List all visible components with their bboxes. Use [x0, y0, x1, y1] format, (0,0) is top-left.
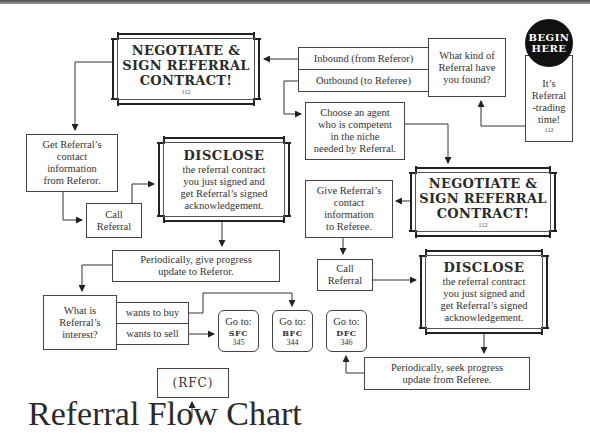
goto-code: DFC	[336, 328, 356, 338]
page-ref: 112	[545, 126, 554, 134]
option-label: Inbound (from Referor)	[314, 53, 414, 65]
box-line: Get Referral’s	[42, 139, 101, 151]
call-referral-outbound: Call Referral	[317, 259, 373, 291]
choose-agent-box: Choose an agent who is competent in the …	[305, 102, 405, 160]
page-ref: 112	[182, 88, 191, 96]
question-line: Referral’s	[59, 317, 100, 329]
box-line: from Referor.	[43, 175, 100, 187]
box-line: information	[324, 209, 374, 221]
box-line: Periodically, seek progress	[391, 362, 503, 374]
goto-page: 345	[233, 338, 245, 347]
box-line: contact	[334, 197, 364, 209]
disclose-line: you just signed and	[443, 288, 524, 300]
progress-outbound-box: Periodically, seek progress update from …	[364, 357, 530, 390]
page-ref: 112	[479, 221, 488, 229]
box-line: update to Referor.	[158, 266, 234, 278]
negotiate-title-line: CONTRACT!	[140, 73, 233, 88]
box-line: information	[47, 163, 97, 175]
rfc-label-box: (RFC)	[157, 368, 229, 398]
box-line: needed by Referral.	[314, 143, 397, 155]
option-outbound[interactable]: Outbound (to Referee)	[298, 69, 429, 92]
question-line: Referral have	[439, 62, 496, 74]
option-label: wants to buy	[126, 307, 180, 319]
rfc-label: (RFC)	[173, 377, 214, 389]
negotiate-title-line: SIGN REFERRAL	[419, 191, 547, 206]
negotiate-title-line: SIGN REFERRAL	[122, 58, 250, 73]
question-line: interest?	[62, 329, 98, 341]
box-line: Referral	[328, 275, 362, 287]
option-inbound[interactable]: Inbound (from Referor)	[298, 47, 429, 70]
start-text-line: It’s	[542, 78, 555, 90]
goto-page: 346	[341, 338, 353, 347]
option-label: Outbound (to Referee)	[316, 75, 411, 87]
disclose-line: acknowledgement.	[444, 312, 523, 324]
start-text-line: -trading	[532, 102, 565, 114]
negotiate-title-line: NEGOTIATE &	[132, 43, 241, 58]
option-wants-to-sell[interactable]: wants to sell	[116, 323, 189, 345]
disclose-line: you just signed and	[183, 176, 264, 188]
get-contact-box: Get Referral’s contact information from …	[26, 134, 118, 192]
goto-dfc[interactable]: Go to: DFC 346	[326, 310, 367, 352]
goto-code: SFC	[229, 328, 248, 338]
goto-label: Go to:	[333, 316, 360, 328]
here-label: HERE	[531, 43, 566, 54]
start-box: It’s Referral -trading time! 112	[525, 55, 573, 142]
box-line: to Referee.	[326, 221, 372, 233]
goto-bfc[interactable]: Go to: BFC 344	[272, 310, 313, 352]
negotiate-contract-outbound: NEGOTIATE & SIGN REFERRAL CONTRACT! 112	[410, 167, 556, 237]
negotiate-title-line: CONTRACT!	[437, 206, 530, 221]
option-label: wants to sell	[126, 328, 179, 340]
begin-here-badge: BEGIN HERE	[525, 19, 573, 67]
start-text-line: time!	[538, 114, 560, 126]
question-interest-box: What is Referral’s interest?	[43, 295, 117, 350]
goto-code: BFC	[282, 328, 302, 338]
question-line: What kind of	[439, 50, 494, 62]
box-line: Call	[336, 263, 354, 275]
disclose-line: get Referral’s signed	[181, 188, 268, 200]
box-line: Choose an agent	[320, 107, 389, 119]
box-line: Referral	[97, 221, 131, 233]
goto-label: Go to:	[279, 316, 306, 328]
question-line: What is	[64, 305, 96, 317]
disclose-line: the referral contract	[443, 276, 526, 288]
option-wants-to-buy[interactable]: wants to buy	[116, 302, 189, 324]
negotiate-contract-inbound: NEGOTIATE & SIGN REFERRAL CONTRACT! 112	[112, 33, 260, 105]
disclose-line: the referral contract	[183, 164, 266, 176]
disclose-inbound: DISCLOSE the referral contract you just …	[158, 137, 290, 222]
box-line: contact	[57, 151, 87, 163]
call-referral-inbound: Call Referral	[86, 203, 142, 238]
disclose-line: acknowledgement.	[184, 200, 263, 212]
disclose-title: DISCLOSE	[444, 260, 525, 276]
question-kind-box: What kind of Referral have you found?	[428, 38, 506, 97]
disclose-title: DISCLOSE	[184, 148, 265, 164]
question-line: you found?	[443, 74, 491, 86]
box-line: who is competent	[318, 119, 392, 131]
goto-label: Go to:	[225, 316, 252, 328]
begin-label: BEGIN	[529, 32, 570, 43]
give-contact-box: Give Referral’s contact information to R…	[305, 180, 393, 238]
page-title: Referral Flow Chart	[28, 396, 302, 432]
progress-inbound-box: Periodically, give progress update to Re…	[112, 250, 280, 282]
box-line: Periodically, give progress	[140, 254, 252, 266]
goto-page: 344	[287, 338, 299, 347]
box-line: in the niche	[331, 131, 380, 143]
disclose-outbound: DISCLOSE the referral contract you just …	[420, 250, 548, 334]
box-line: update from Referee.	[403, 374, 492, 386]
goto-sfc[interactable]: Go to: SFC 345	[218, 310, 259, 352]
box-line: Give Referral’s	[317, 185, 381, 197]
box-line: Call	[105, 209, 123, 221]
negotiate-title-line: NEGOTIATE &	[429, 176, 538, 191]
start-text-line: Referral	[532, 90, 566, 102]
disclose-line: get Referral’s signed	[441, 300, 528, 312]
